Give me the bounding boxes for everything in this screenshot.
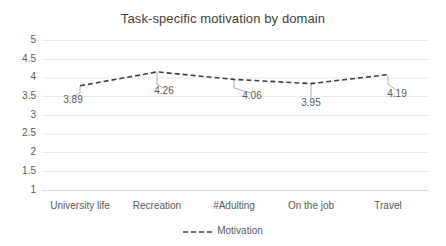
chart-container: Task-specific motivation by domain: [0, 0, 446, 246]
y-tick-label: 2.5: [8, 127, 36, 138]
y-tick-label: 3: [8, 109, 36, 120]
data-label-adulting: 4.06: [222, 90, 282, 101]
legend-item-motivation: Motivation: [183, 224, 263, 236]
data-label-on-the-job: 3.95: [281, 97, 341, 108]
y-tick-label: 4: [8, 71, 36, 82]
x-tick-label-travel: Travel: [336, 200, 440, 211]
y-tick-label: 3.5: [8, 90, 36, 101]
data-label-travel: 4.19: [367, 88, 427, 99]
data-label-university-life: 3.89: [43, 94, 103, 105]
y-tick-label: 2: [8, 146, 36, 157]
y-tick-label: 5: [8, 34, 36, 45]
gridlines: [42, 41, 428, 172]
y-tick-label: 1: [8, 184, 36, 195]
chart-legend: Motivation: [0, 224, 446, 236]
y-tick-label: 1.5: [8, 165, 36, 176]
y-tick-label: 4.5: [8, 53, 36, 64]
legend-dash-icon: [183, 227, 213, 235]
data-label-recreation: 4.26: [134, 85, 194, 96]
legend-label-motivation: Motivation: [217, 225, 263, 236]
